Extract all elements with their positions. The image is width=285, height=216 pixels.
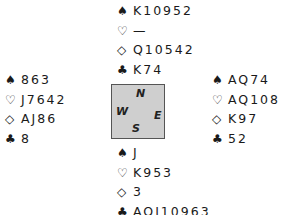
east-hearts: ♡AQ108	[212, 90, 280, 110]
diamond-icon: ◇	[117, 183, 133, 203]
heart-icon: ♡	[117, 164, 133, 184]
south-hearts: ♡K953	[117, 163, 211, 183]
compass-north: N	[136, 87, 145, 100]
compass-box: N W E S	[111, 84, 165, 139]
north-hand: ♠K10952 ♡— ◇Q10542 ♣K74	[117, 1, 195, 79]
club-icon: ♣	[117, 203, 133, 216]
club-icon: ♣	[5, 130, 21, 150]
compass-south: S	[132, 122, 140, 135]
south-diamonds: ◇3	[117, 182, 211, 202]
club-icon: ♣	[117, 61, 133, 81]
west-diamonds: ◇AJ86	[5, 109, 67, 129]
east-spades: ♠AQ74	[212, 70, 280, 90]
east-diamonds: ◇K97	[212, 109, 280, 129]
spade-icon: ♠	[117, 2, 133, 22]
south-hand: ♠J ♡K953 ◇3 ♣AQJ10963	[117, 143, 211, 215]
heart-icon: ♡	[212, 91, 228, 111]
west-hearts: ♡J7642	[5, 90, 67, 110]
north-hearts: ♡—	[117, 21, 195, 41]
east-hand: ♠AQ74 ♡AQ108 ◇K97 ♣52	[212, 70, 280, 148]
heart-icon: ♡	[117, 22, 133, 42]
west-hand: ♠863 ♡J7642 ◇AJ86 ♣8	[5, 70, 67, 148]
south-spades: ♠J	[117, 143, 211, 163]
club-icon: ♣	[212, 130, 228, 150]
north-diamonds: ◇Q10542	[117, 40, 195, 60]
diamond-icon: ◇	[5, 110, 21, 130]
north-clubs: ♣K74	[117, 60, 195, 80]
south-clubs: ♣AQJ10963	[117, 202, 211, 216]
spade-icon: ♠	[117, 144, 133, 164]
compass-west: W	[116, 105, 128, 118]
west-clubs: ♣8	[5, 129, 67, 149]
east-clubs: ♣52	[212, 129, 280, 149]
heart-icon: ♡	[5, 91, 21, 111]
diamond-icon: ◇	[212, 110, 228, 130]
west-spades: ♠863	[5, 70, 67, 90]
spade-icon: ♠	[212, 71, 228, 91]
compass-east: E	[154, 109, 162, 122]
spade-icon: ♠	[5, 71, 21, 91]
north-spades: ♠K10952	[117, 1, 195, 21]
diamond-icon: ◇	[117, 41, 133, 61]
